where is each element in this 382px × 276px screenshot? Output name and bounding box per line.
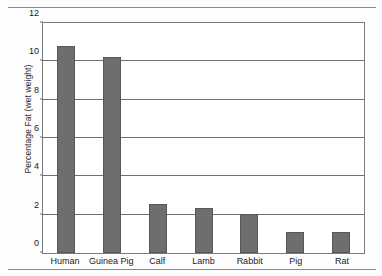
y-tick-label: 6 xyxy=(34,123,39,133)
bar-slot xyxy=(272,23,318,253)
bar-calf xyxy=(149,204,167,253)
x-tick-label: Calf xyxy=(134,255,180,266)
y-tick-label: 8 xyxy=(34,85,39,95)
y-tick-label: 12 xyxy=(29,8,39,18)
x-tick-label: Pig xyxy=(273,255,319,266)
bar-series xyxy=(43,23,364,253)
bar-slot xyxy=(135,23,181,253)
bar-chart-figure: Percentage Fat (wet weight) 024681012 Hu… xyxy=(0,10,382,268)
x-axis-tick-labels: HumanGuinea PigCalfLambRabbitPigRat xyxy=(42,255,365,266)
y-tick-label: 2 xyxy=(34,200,39,210)
scanned-page: Percentage Fat (wet weight) 024681012 Hu… xyxy=(0,0,382,276)
bar-rabbit xyxy=(240,214,258,253)
bar-slot xyxy=(43,23,89,253)
bar-slot xyxy=(89,23,135,253)
x-tick-label: Guinea Pig xyxy=(88,255,134,266)
bar-pig xyxy=(286,232,304,253)
bar-human xyxy=(57,46,75,253)
bar-lamb xyxy=(195,208,213,253)
x-tick-label: Human xyxy=(42,255,88,266)
x-tick-label: Rabbit xyxy=(227,255,273,266)
bar-slot xyxy=(226,23,272,253)
y-tick-label: 4 xyxy=(34,161,39,171)
page-rule-top xyxy=(8,7,376,8)
bar-slot xyxy=(318,23,364,253)
plot-area: 024681012 xyxy=(42,22,365,254)
x-tick-label: Lamb xyxy=(180,255,226,266)
page-rule-bottom xyxy=(8,269,376,270)
x-tick-label: Rat xyxy=(319,255,365,266)
bar-guinea-pig xyxy=(103,57,121,253)
y-tick-label: 0 xyxy=(34,238,39,248)
bar-slot xyxy=(181,23,227,253)
bar-rat xyxy=(332,232,350,253)
y-tick-label: 10 xyxy=(29,46,39,56)
